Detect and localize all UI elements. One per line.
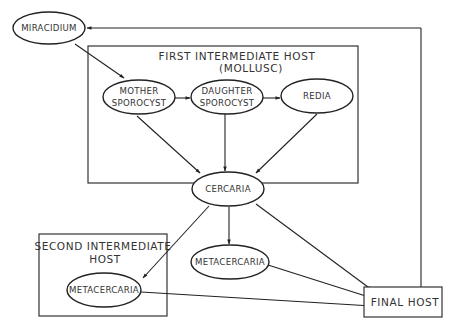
edge-cercaria-to-final-host [256,204,372,290]
node-daughter-sporocyst: DAUGHTER SPOROCYST [191,80,263,114]
edge-miracidium-to-mother-sporocyst [75,44,124,78]
edge-metacercaria-to-final-host [268,265,372,298]
edge-mother-sporocyst-to-cercaria [137,116,200,173]
edge-redia-to-cercaria [256,114,317,173]
mother-sporocyst-label-line2: SPOROCYST [112,98,167,108]
miracidium-label: MIRACIDIUM [21,23,77,33]
mother-sporocyst-label-line1: MOTHER [119,86,158,96]
edge-metacercaria-second-host-to-final-host [141,292,372,306]
daughter-sporocyst-label-line2: SPOROCYST [200,98,255,108]
daughter-sporocyst-label-line1: DAUGHTER [202,86,253,96]
node-metacercaria-second-host: METACERCARIA [67,273,141,307]
node-miracidium: MIRACIDIUM [13,12,85,44]
metacercaria-second-host-label: METACERCARIA [69,285,139,295]
metacercaria-free-label: METACERCARIA [195,257,265,267]
node-final-host: FINAL HOST [364,287,442,317]
node-metacercaria-free: METACERCARIA [191,245,269,279]
node-cercaria: CERCARIA [192,172,264,206]
cercaria-label: CERCARIA [205,184,251,194]
node-mother-sporocyst: MOTHER SPOROCYST [103,80,175,114]
first-host-title-line2: (MOLLUSC) [219,62,283,74]
trematode-life-cycle-diagram: FIRST INTERMEDIATE HOST (MOLLUSC) SECOND… [0,0,457,334]
first-host-title-line1: FIRST INTERMEDIATE HOST [159,50,316,62]
redia-label: REDIA [303,91,331,101]
second-host-title-line2: HOST [89,253,121,265]
final-host-label: FINAL HOST [371,296,440,308]
node-redia: REDIA [281,79,353,113]
second-host-title-line1: SECOND INTERMEDIATE [34,240,171,252]
